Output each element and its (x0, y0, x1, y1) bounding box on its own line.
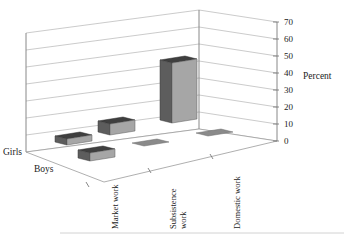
row-label-girls: Girls (3, 147, 22, 157)
y-axis-ticks (273, 22, 279, 141)
y-axis-title: Percent (303, 71, 332, 81)
category-label-subsistence-line2: work (178, 211, 188, 229)
y-tick-label: 60 (284, 34, 294, 44)
y-tick-label: 70 (284, 17, 294, 27)
category-label-market-work: Market work (110, 184, 120, 229)
y-tick-label: 0 (284, 136, 289, 146)
chart-container: 70 60 50 40 30 20 10 0 Percent Girls Boy… (0, 0, 344, 240)
category-label-subsistence-line1: Subsistence (168, 188, 178, 229)
x-axis-category-labels: Market work Subsistence work Domestic wo… (110, 176, 242, 229)
y-tick-label: 20 (284, 102, 294, 112)
bar-chart-3d: 70 60 50 40 30 20 10 0 Percent Girls Boy… (0, 0, 344, 240)
y-tick-label: 10 (284, 119, 294, 129)
bar-girls-subsistence-work (98, 117, 135, 135)
y-tick-label: 40 (284, 68, 294, 78)
y-axis-tick-labels: 70 60 50 40 30 20 10 0 (284, 17, 294, 146)
y-tick-label: 50 (284, 51, 294, 61)
y-tick-label: 30 (284, 85, 294, 95)
bar-girls-market-work (55, 132, 92, 145)
bar-girls-tall (160, 56, 197, 123)
category-label-domestic-work: Domestic work (232, 176, 242, 229)
gridlines-right-panel (199, 10, 277, 141)
row-label-boys: Boys (34, 164, 54, 174)
